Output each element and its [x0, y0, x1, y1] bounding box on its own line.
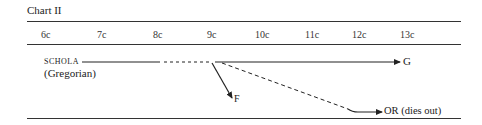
g-label: G — [403, 55, 411, 67]
schola-label: SCHOLA — [44, 57, 79, 66]
dashed-to-or — [222, 63, 348, 109]
f-label: F — [234, 93, 240, 104]
arrow-to-f — [212, 63, 232, 98]
arrow-to-or — [348, 109, 382, 112]
bottom-rule — [27, 118, 461, 119]
gregorian-label: (Gregorian) — [44, 67, 96, 79]
or-label: OR (dies out) — [384, 105, 441, 116]
